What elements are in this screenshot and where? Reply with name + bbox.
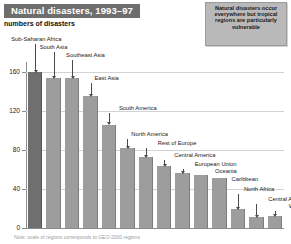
- label-pointer: [35, 44, 36, 70]
- bar-north-africa: [231, 209, 245, 228]
- bar-east-asia: [83, 96, 97, 228]
- bar-label-north-america: North America: [131, 131, 168, 138]
- callout-text: Natural disasters occur everywhere but t…: [206, 5, 286, 30]
- chart-footnote: Note: scale of regions corresponds to GE…: [14, 234, 140, 240]
- bar-label-central-america: Central America: [174, 152, 215, 159]
- bar-label-rest-of-europe: Rest of Europe: [158, 140, 197, 147]
- chart-page: Natural disasters, 1993–97 numbers of di…: [0, 0, 291, 244]
- label-pointer: [238, 194, 239, 207]
- bar-south-america: [102, 125, 116, 229]
- bar-west-asia: [268, 216, 282, 228]
- label-pointer: [183, 169, 184, 171]
- bar-label-east-asia: East Asia: [95, 75, 119, 82]
- bar-oceania: [194, 175, 208, 228]
- bar-central-america: [157, 166, 171, 228]
- chart-subtitle: numbers of disasters: [4, 20, 75, 27]
- bar-rest-of-europe: [139, 157, 153, 228]
- bar-label-oceania: Oceania: [215, 168, 237, 175]
- bar-series: [26, 62, 284, 228]
- title-banner: Natural disasters, 1993–97: [4, 4, 140, 18]
- bar-european-union: [175, 173, 189, 228]
- label-pointer: [275, 211, 276, 214]
- bar-label-caribbean: Caribbean: [232, 176, 259, 183]
- bar-label-southeast-asia: Southeast Asia: [66, 52, 105, 59]
- plot-area: 04080120160: [26, 62, 284, 228]
- bar-caribbean: [212, 178, 226, 228]
- y-tick-label: 0: [16, 224, 20, 231]
- bar-southeast-asia: [65, 78, 79, 228]
- label-pointer: [91, 83, 92, 94]
- bar-label-sub-saharan-africa: Sub-Saharan Africa: [11, 36, 61, 43]
- label-pointer: [72, 60, 73, 76]
- label-pointer: [54, 52, 55, 76]
- y-tick: [22, 228, 26, 229]
- y-tick-label: 40: [13, 185, 20, 192]
- bar-north-america: [120, 148, 134, 228]
- label-pointer: [109, 113, 110, 122]
- label-pointer: [164, 160, 165, 164]
- callout-box: Natural disasters occur everywhere but t…: [205, 2, 287, 46]
- page-title: Natural disasters, 1993–97: [11, 5, 133, 17]
- bar-central-asia: [249, 217, 263, 228]
- bar-label-north-africa: North Africa: [244, 186, 274, 193]
- label-pointer: [256, 204, 257, 215]
- bar-label-south-asia: South Asia: [40, 44, 68, 51]
- y-tick-label: 120: [9, 107, 20, 114]
- y-tick-label: 160: [9, 68, 20, 75]
- bar-south-asia: [46, 78, 60, 228]
- bar-label-south-america: South America: [119, 105, 157, 112]
- bar-label-central-asia: Central Asia: [268, 196, 291, 203]
- label-pointer: [146, 148, 147, 155]
- x-axis: [26, 228, 284, 229]
- bar-label-european-union: European Union: [195, 161, 237, 168]
- y-tick-label: 80: [13, 146, 20, 153]
- bar-sub-saharan-africa: [28, 72, 42, 228]
- label-pointer: [127, 139, 128, 146]
- bar-label-west-asia: West Asia: [289, 203, 291, 210]
